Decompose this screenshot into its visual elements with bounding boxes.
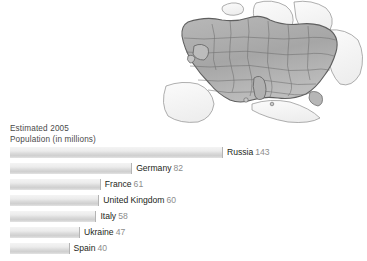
bar-france	[10, 179, 101, 190]
bar-value: 60	[167, 195, 177, 205]
bar-country-name: Italy	[100, 211, 116, 221]
bar-country-name: United Kingdom	[103, 195, 164, 205]
chart-title-line-2: Population (in millions)	[10, 134, 96, 145]
bar-row: Spain40	[0, 241, 367, 257]
chart-title: Estimated 2005 Population (in millions)	[10, 123, 96, 145]
bar-value: 82	[173, 163, 183, 173]
bar-ukraine	[10, 227, 80, 238]
bar-label: Italy58	[100, 210, 127, 223]
bar-united-kingdom	[10, 195, 99, 206]
chart-title-line-1: Estimated 2005	[10, 123, 96, 134]
bar-label: France61	[105, 178, 143, 191]
europe-map	[160, 0, 367, 124]
bar-value: 58	[118, 211, 128, 221]
bar-row: Ukraine47	[0, 225, 367, 241]
population-bar-chart: Estimated 2005 Population (in millions) …	[0, 120, 367, 261]
europe-map-svg	[160, 0, 367, 124]
bar-label: Germany82	[136, 162, 183, 175]
bar-italy	[10, 211, 96, 222]
bar-row: Germany82	[0, 161, 367, 177]
bar-label: United Kingdom60	[103, 194, 176, 207]
bar-label: Spain40	[74, 242, 108, 255]
bar-row: France61	[0, 177, 367, 193]
bar-country-name: Ukraine	[84, 227, 114, 237]
bar-country-name: Germany	[136, 163, 171, 173]
bar-row: Russia143	[0, 145, 367, 161]
bar-label: Ukraine47	[84, 226, 125, 239]
bar-spain	[10, 243, 70, 254]
bar-value: 143	[255, 147, 269, 157]
bar-row: Italy58	[0, 209, 367, 225]
bar-list: Russia143Germany82France61United Kingdom…	[0, 145, 367, 257]
bar-country-name: Spain	[74, 243, 96, 253]
bar-russia	[10, 147, 223, 158]
bar-value: 61	[134, 179, 144, 189]
bar-country-name: France	[105, 179, 132, 189]
infographic-page: Estimated 2005 Population (in millions) …	[0, 0, 367, 261]
bar-germany	[10, 163, 132, 174]
bar-label: Russia143	[227, 146, 270, 159]
bar-row: United Kingdom60	[0, 193, 367, 209]
bar-value: 47	[116, 227, 126, 237]
bar-value: 40	[98, 243, 108, 253]
bar-country-name: Russia	[227, 147, 253, 157]
